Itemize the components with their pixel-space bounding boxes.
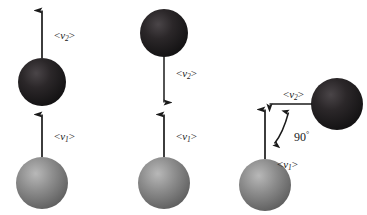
v2-label: <v2> xyxy=(283,88,304,102)
right-angle-arc xyxy=(275,113,289,144)
light-sphere xyxy=(138,157,190,209)
dark-sphere xyxy=(18,58,66,106)
dark-sphere xyxy=(140,9,188,57)
panel-3: <v2> <v1> 90° xyxy=(239,78,363,211)
panel-2: <v2> <v1> xyxy=(138,9,197,209)
panel-1: <v2> <v1> xyxy=(16,11,75,210)
v1-label: <v1> xyxy=(176,130,197,144)
light-sphere xyxy=(16,157,68,209)
v2-label: <v2> xyxy=(54,29,75,43)
angle-value: 90 xyxy=(294,130,306,144)
v1-label: <v1> xyxy=(54,130,75,144)
angle-label: 90° xyxy=(294,130,309,144)
physics-collision-figure: <v2> <v1> <v2> <v1> <v2> <v1> 90° xyxy=(0,0,367,215)
v2-label: <v2> xyxy=(176,67,197,81)
dark-sphere xyxy=(311,78,363,130)
